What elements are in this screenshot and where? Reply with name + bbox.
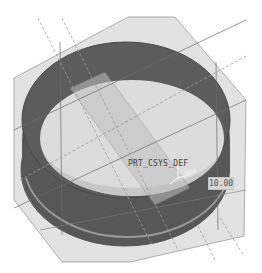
csys-label: PRT_CSYS_DEF <box>128 159 188 168</box>
model-viewport[interactable]: PRT_CSYS_DEF 10.00 <box>0 0 262 273</box>
dimension-value-box[interactable]: 10.00 <box>208 177 234 190</box>
cad-model-canvas[interactable] <box>0 0 262 273</box>
